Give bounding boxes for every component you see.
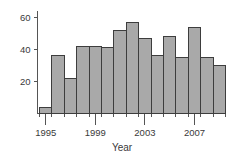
bar bbox=[64, 78, 76, 113]
bar bbox=[201, 57, 213, 113]
bar bbox=[164, 37, 176, 114]
x-tick-label: 2003 bbox=[134, 127, 155, 138]
x-axis-title: Year bbox=[112, 142, 133, 153]
bar bbox=[213, 65, 225, 113]
x-axis-tick-labels: 1995199920032007 bbox=[35, 127, 205, 138]
bar-group bbox=[40, 22, 226, 113]
bar bbox=[52, 56, 64, 114]
bar bbox=[102, 48, 114, 114]
y-tick-label: 20 bbox=[20, 76, 31, 87]
y-tick-label: 60 bbox=[20, 12, 31, 23]
chart-canvas: 604020 1995199920032007 Year bbox=[0, 0, 243, 158]
y-tick-label: 40 bbox=[20, 44, 31, 55]
bar bbox=[176, 57, 188, 113]
bar bbox=[89, 46, 101, 113]
bar bbox=[77, 46, 89, 113]
y-axis-ticks bbox=[34, 17, 38, 81]
bar bbox=[188, 27, 200, 113]
x-tick-label: 1999 bbox=[85, 127, 106, 138]
y-axis-tick-labels: 604020 bbox=[20, 12, 31, 87]
x-tick-label: 1995 bbox=[35, 127, 56, 138]
x-axis-ticks bbox=[40, 114, 226, 125]
bar bbox=[139, 38, 151, 113]
bar bbox=[114, 30, 126, 113]
bar-chart: 604020 1995199920032007 Year bbox=[0, 0, 243, 158]
bar bbox=[126, 22, 138, 113]
bar bbox=[151, 56, 163, 114]
bar bbox=[40, 107, 52, 113]
x-tick-label: 2007 bbox=[184, 127, 205, 138]
